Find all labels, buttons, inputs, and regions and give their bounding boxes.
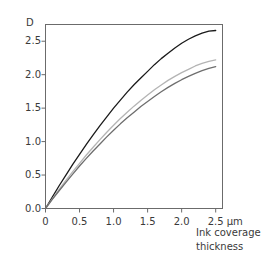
ink-density-chart: D 0.00.51.01.52.02.5 00.51.01.52.02.5µm … [0,0,267,263]
x-axis-title: Ink coverage thickness [196,226,261,254]
plot-border [46,25,223,209]
x-axis-ticks [46,209,216,213]
x-axis-title-line-1: Ink coverage [196,226,261,240]
data-curves [46,31,216,209]
plot-canvas [0,0,267,263]
light-gray-ink-curve [46,60,216,209]
black-ink-curve [46,31,216,209]
y-axis-ticks [42,41,46,208]
x-axis-title-line-2: thickness [196,240,261,254]
plot-frame [46,25,223,209]
